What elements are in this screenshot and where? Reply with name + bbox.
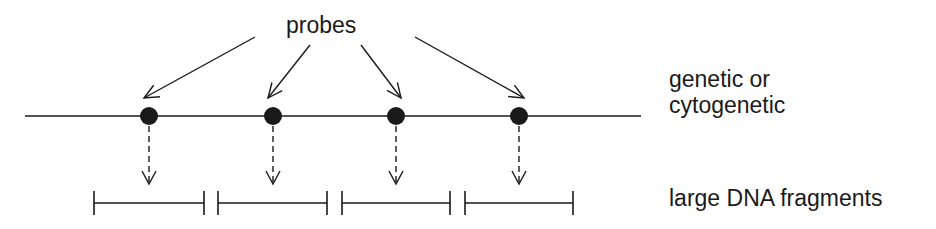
probe-arrow-2 (268, 45, 310, 98)
probe-dot-4 (510, 107, 528, 125)
probe-dot-3 (387, 107, 405, 125)
probe-arrow-4 (415, 37, 524, 98)
probes-label: probes (286, 12, 356, 38)
map-type-label-line2: cytogenetic (669, 92, 785, 118)
probe-arrow-1 (144, 37, 255, 98)
probe-dot-1 (140, 107, 158, 125)
probe-dot-2 (264, 107, 282, 125)
probe-arrow-3 (361, 45, 401, 98)
map-type-label-line1: genetic or (669, 66, 770, 92)
fragments-label: large DNA fragments (669, 185, 882, 211)
